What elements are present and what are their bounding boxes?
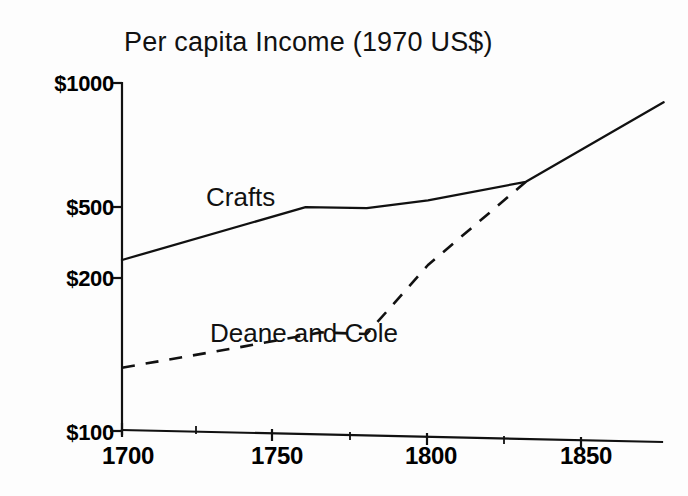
plot-area bbox=[0, 0, 688, 496]
series-line-crafts bbox=[122, 102, 664, 260]
series-line-deane-and-cole bbox=[122, 182, 526, 368]
chart-figure: Per capita Income (1970 US$) $1000 $500 … bbox=[0, 0, 688, 496]
y-axis-ticks bbox=[110, 83, 122, 431]
